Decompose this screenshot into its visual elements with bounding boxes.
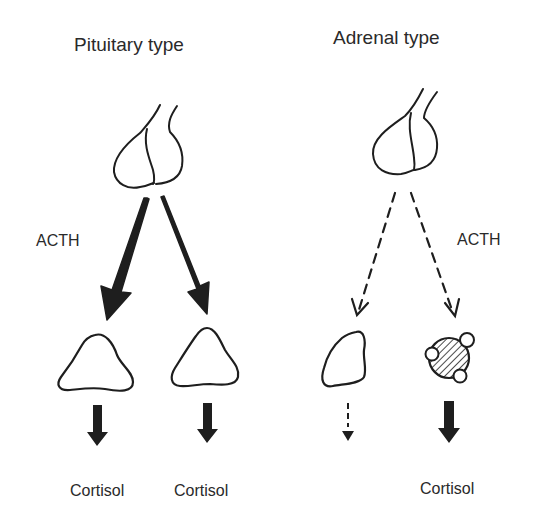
acth-arrows-suppressed (352, 193, 459, 316)
diagram-canvas (0, 0, 535, 515)
adrenal-gland-left-1 (58, 335, 133, 391)
cortisol-arrow-strong-adrenal (438, 401, 460, 443)
pituitary-gland-left (114, 105, 182, 188)
cortisol-arrows-strong (87, 403, 218, 446)
adrenal-gland-atrophic (322, 332, 365, 387)
adrenal-gland-left-2 (172, 328, 239, 386)
adrenal-tumor (426, 333, 475, 383)
acth-arrows-strong (101, 196, 209, 320)
pituitary-gland-right (373, 89, 437, 174)
cortisol-arrow-suppressed (342, 403, 354, 441)
